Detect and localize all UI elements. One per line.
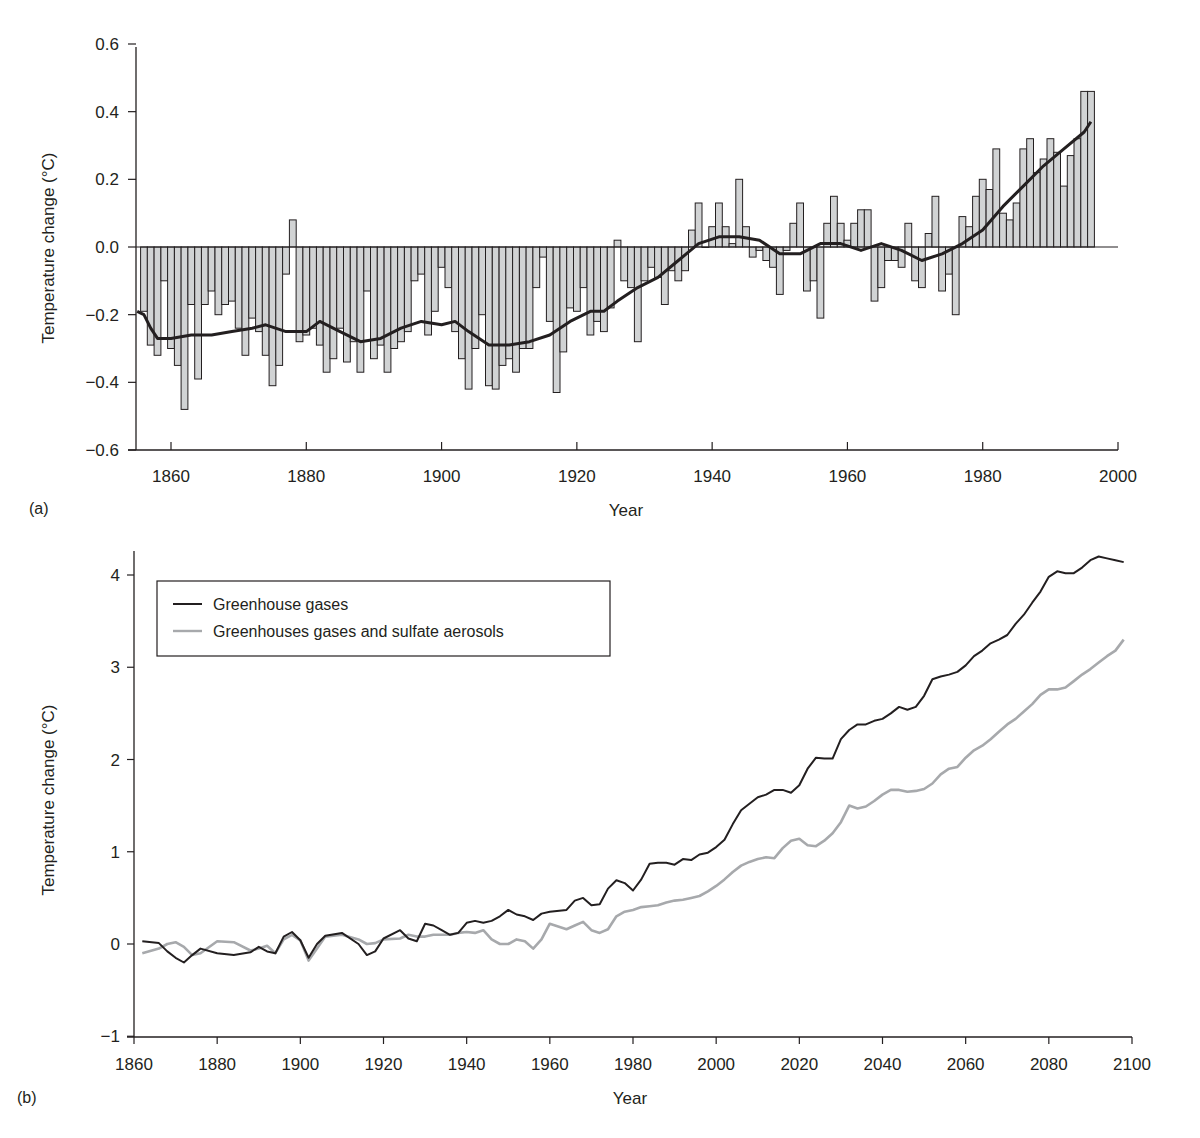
- anomaly-bar: [553, 247, 560, 393]
- x-axis-title: Year: [609, 501, 644, 520]
- anomaly-bar: [546, 247, 553, 321]
- y-axis-title: Temperature change (°C): [39, 704, 58, 895]
- anomaly-bar: [919, 247, 926, 288]
- anomaly-bar: [885, 247, 892, 261]
- anomaly-bar: [506, 247, 513, 359]
- anomaly-bar: [648, 247, 655, 267]
- anomaly-bar: [716, 203, 723, 247]
- anomaly-bar: [817, 247, 824, 318]
- x-tick-label: 1980: [614, 1055, 652, 1074]
- anomaly-bar: [283, 247, 290, 274]
- anomaly-bar: [567, 247, 574, 308]
- anomaly-bar: [1067, 156, 1074, 247]
- anomaly-bar: [486, 247, 493, 386]
- y-tick-label: −0.2: [85, 306, 119, 325]
- anomaly-bar: [357, 247, 364, 372]
- anomaly-bar: [262, 247, 269, 355]
- anomaly-bar: [465, 247, 472, 389]
- anomaly-bar: [1027, 139, 1034, 247]
- anomaly-bar: [229, 247, 236, 301]
- anomaly-bar: [174, 247, 181, 365]
- panel-label: (b): [17, 1089, 37, 1106]
- anomaly-bar: [459, 247, 466, 359]
- anomaly-bar: [905, 223, 912, 247]
- y-axis-ticks: 0.60.40.20.0−0.2−0.4−0.6: [85, 35, 136, 460]
- x-tick-label: 2100: [1113, 1055, 1151, 1074]
- x-tick-label: 2000: [697, 1055, 735, 1074]
- panel-b-chart: 43210−1 18601880190019201940196019802000…: [17, 551, 1151, 1108]
- anomaly-bar: [912, 247, 919, 281]
- anomaly-bar: [513, 247, 520, 372]
- anomaly-bar: [296, 247, 303, 342]
- x-tick-label: 1920: [365, 1055, 403, 1074]
- y-tick-label: 4: [111, 566, 120, 585]
- anomaly-bar: [188, 247, 195, 305]
- anomaly-bar: [864, 210, 871, 247]
- y-tick-label: −1: [101, 1027, 120, 1046]
- y-tick-label: −0.4: [85, 373, 119, 392]
- anomaly-bar: [614, 240, 621, 247]
- anomaly-bar: [141, 247, 148, 311]
- y-tick-label: 0.2: [95, 170, 119, 189]
- anomaly-bar: [330, 247, 337, 359]
- anomaly-bar: [621, 247, 628, 281]
- anomaly-bar: [418, 247, 425, 274]
- x-tick-label: 1960: [829, 467, 867, 486]
- anomaly-bar: [316, 247, 323, 345]
- anomaly-bar: [1061, 186, 1068, 247]
- x-tick-label: 2040: [864, 1055, 902, 1074]
- anomaly-bar: [1054, 152, 1061, 247]
- anomaly-bar: [1006, 220, 1013, 247]
- anomaly-bar: [411, 247, 418, 281]
- x-tick-label: 1860: [152, 467, 190, 486]
- x-tick-label: 1900: [423, 467, 461, 486]
- anomaly-bar: [574, 247, 581, 311]
- anomaly-bar: [804, 247, 811, 291]
- anomaly-bar: [831, 196, 838, 247]
- anomaly-bar: [384, 247, 391, 372]
- anomaly-bar: [519, 247, 526, 349]
- anomaly-bar: [932, 196, 939, 247]
- anomaly-bar: [682, 247, 689, 271]
- anomaly-bar: [655, 247, 662, 277]
- anomaly-bar: [1088, 91, 1095, 247]
- anomaly-bar: [1013, 203, 1020, 247]
- anomaly-bar: [276, 247, 283, 365]
- anomaly-bar: [979, 179, 986, 247]
- x-tick-label: 1980: [964, 467, 1002, 486]
- x-tick-label: 1900: [281, 1055, 319, 1074]
- anomaly-bar: [993, 149, 1000, 247]
- anomaly-bar: [810, 247, 817, 281]
- x-tick-label: 1880: [198, 1055, 236, 1074]
- anomaly-bar: [871, 247, 878, 301]
- y-tick-label: −0.6: [85, 441, 119, 460]
- anomaly-bar: [256, 247, 263, 332]
- anomaly-bar: [445, 247, 452, 288]
- x-tick-label: 1960: [531, 1055, 569, 1074]
- panel-a-chart: 0.60.40.20.0−0.2−0.4−0.6 186018801900192…: [29, 35, 1137, 520]
- y-tick-label: 2: [111, 751, 120, 770]
- anomaly-bar: [371, 247, 378, 359]
- x-axis-ticks: 1860188019001920194019601980200020202040…: [115, 1037, 1151, 1074]
- anomaly-bar: [242, 247, 249, 355]
- y-tick-label: 0: [111, 935, 120, 954]
- anomaly-bar: [208, 247, 215, 291]
- anomaly-bar: [235, 247, 242, 328]
- anomaly-bar: [533, 247, 540, 288]
- anomaly-bar: [323, 247, 330, 372]
- x-tick-label: 1860: [115, 1055, 153, 1074]
- y-axis-ticks: 43210−1: [101, 566, 134, 1046]
- x-tick-label: 2020: [780, 1055, 818, 1074]
- anomaly-bar: [499, 247, 506, 365]
- x-axis-ticks: 18601880190019201940196019802000: [152, 442, 1137, 486]
- anomaly-bar: [289, 220, 296, 247]
- legend-box: [157, 581, 610, 656]
- anomaly-bar: [797, 203, 804, 247]
- anomaly-bar: [695, 203, 702, 247]
- anomaly-bar: [790, 223, 797, 247]
- x-tick-label: 2000: [1099, 467, 1137, 486]
- anomaly-bar: [601, 247, 608, 332]
- anomaly-bar: [1074, 139, 1081, 247]
- anomaly-bar: [1000, 213, 1007, 247]
- anomaly-bar: [479, 247, 486, 315]
